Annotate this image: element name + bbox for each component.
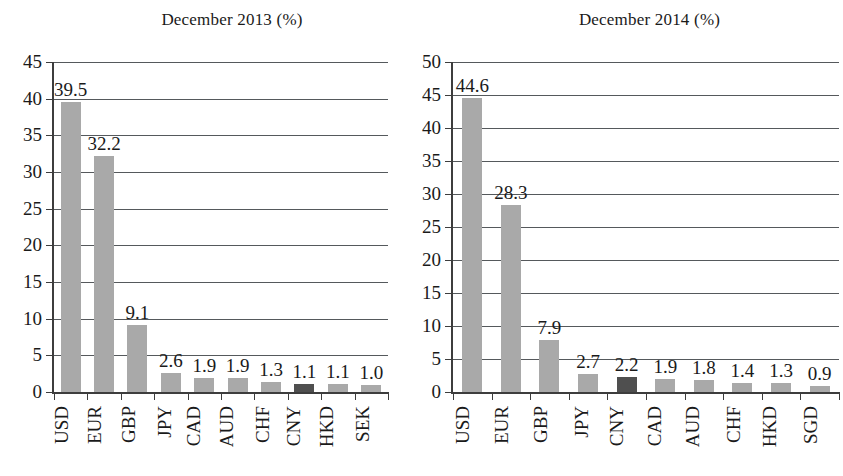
bar-item[interactable]: 1.1HKD	[321, 62, 354, 392]
bar-item[interactable]: 1.9CAD	[646, 62, 685, 392]
y-axis-tick-label: 30	[23, 162, 42, 181]
chart-title-december-2013: December 2013 (%)	[0, 10, 438, 30]
bar-item[interactable]: 2.7JPY	[569, 62, 608, 392]
x-axis-tick	[646, 392, 647, 400]
x-axis-tick	[221, 392, 222, 400]
bar-aud[interactable]	[228, 378, 248, 392]
x-axis-tick	[453, 392, 454, 400]
bar-item[interactable]: 0.9SGD	[800, 62, 839, 392]
bar-hkd[interactable]	[328, 384, 348, 392]
bar-item[interactable]: 1.9CAD	[188, 62, 221, 392]
x-axis-category-label-jpy: JPY	[155, 406, 174, 438]
bar-value-label: 1.3	[259, 360, 283, 379]
bar-item[interactable]: 2.6JPY	[154, 62, 187, 392]
bar-value-label: 7.9	[538, 318, 562, 337]
y-axis-tick-label: 0	[33, 382, 43, 401]
bar-eur[interactable]	[501, 205, 521, 392]
x-axis-tick	[87, 392, 88, 400]
x-axis-tick	[388, 392, 389, 400]
bar-value-label: 28.3	[494, 183, 527, 202]
y-axis-tick-label: 50	[422, 52, 441, 71]
y-axis-tick-label: 0	[432, 382, 442, 401]
category-label-text: JPY	[155, 406, 174, 438]
y-axis-tick-label: 5	[432, 349, 442, 368]
y-axis-tick-label: 25	[422, 217, 441, 236]
category-label-text: CAD	[184, 406, 203, 446]
plot-area-december-2013: 051015202530354045 39.5USD32.2EUR9.1GBP2…	[52, 62, 388, 394]
bar-value-label: 0.9	[808, 364, 832, 383]
bar-value-label: 1.1	[326, 362, 350, 381]
bar-item[interactable]: 1.4CHF	[723, 62, 762, 392]
bar-item[interactable]: 1.9AUD	[221, 62, 254, 392]
x-axis-category-label-aud: AUD	[683, 406, 702, 447]
bar-item[interactable]: 39.5USD	[54, 62, 87, 392]
bar-item[interactable]: 7.9GBP	[530, 62, 569, 392]
bar-chf[interactable]	[732, 383, 752, 392]
x-axis-tick	[685, 392, 686, 400]
category-label-text: CHF	[253, 406, 272, 443]
y-axis-tick	[445, 359, 453, 360]
bar-item[interactable]: 1.8AUD	[685, 62, 724, 392]
category-label-text: USD	[453, 406, 472, 444]
bar-item[interactable]: 44.6USD	[453, 62, 492, 392]
bar-cny[interactable]	[294, 384, 314, 392]
x-axis-category-label-eur: EUR	[492, 406, 511, 444]
y-axis-tick	[46, 392, 54, 393]
category-label-text: AUD	[217, 406, 236, 447]
y-axis-tick-label: 40	[23, 89, 42, 108]
y-axis-tick-label: 25	[23, 199, 42, 218]
bar-chf[interactable]	[261, 382, 281, 392]
y-axis-tick	[46, 282, 54, 283]
bar-hkd[interactable]	[771, 383, 791, 392]
bar-value-label: 9.1	[126, 303, 150, 322]
y-axis-tick	[46, 245, 54, 246]
bar-gbp[interactable]	[127, 325, 147, 392]
bar-value-label: 39.5	[54, 80, 87, 99]
category-label-text: USD	[52, 406, 71, 444]
bar-usd[interactable]	[61, 102, 81, 392]
x-axis-tick	[607, 392, 608, 400]
bar-usd[interactable]	[462, 98, 482, 392]
x-axis-tick	[288, 392, 289, 400]
bar-item[interactable]: 1.3CHF	[254, 62, 287, 392]
bar-item[interactable]: 2.2CNY	[607, 62, 646, 392]
category-label-text: AUD	[683, 406, 702, 447]
x-axis-tick	[800, 392, 801, 400]
bar-cad[interactable]	[194, 378, 214, 392]
bar-gbp[interactable]	[539, 340, 559, 392]
y-axis-tick	[445, 95, 453, 96]
bar-value-label: 2.7	[576, 352, 600, 371]
bar-item[interactable]: 28.3EUR	[492, 62, 531, 392]
bar-item[interactable]: 9.1GBP	[121, 62, 154, 392]
x-axis-category-label-hkd: HKD	[317, 406, 336, 447]
bar-value-label: 1.9	[226, 356, 250, 375]
x-axis-tick	[839, 392, 840, 400]
y-axis-tick	[46, 62, 54, 63]
y-axis-tick-label: 30	[422, 184, 441, 203]
y-axis-tick-label: 40	[422, 118, 441, 137]
bar-sgd[interactable]	[810, 386, 830, 392]
y-axis-tick-label: 35	[23, 125, 42, 144]
bar-item[interactable]: 1.0SEK	[355, 62, 388, 392]
bar-eur[interactable]	[94, 156, 114, 392]
bar-item[interactable]: 1.3HKD	[762, 62, 801, 392]
bar-item[interactable]: 1.1CNY	[288, 62, 321, 392]
x-axis-tick	[188, 392, 189, 400]
y-axis-tick	[445, 392, 453, 393]
category-label-text: SEK	[353, 406, 372, 442]
bar-sek[interactable]	[361, 385, 381, 392]
y-axis-tick-label: 15	[23, 272, 42, 291]
bar-jpy[interactable]	[161, 373, 181, 392]
y-axis-tick	[445, 62, 453, 63]
bar-item[interactable]: 32.2EUR	[87, 62, 120, 392]
bar-cny[interactable]	[617, 377, 637, 392]
x-axis-tick	[154, 392, 155, 400]
x-axis-category-label-cny: CNY	[607, 406, 626, 446]
bar-aud[interactable]	[694, 380, 714, 392]
bar-value-label: 1.9	[192, 356, 216, 375]
bar-jpy[interactable]	[578, 374, 598, 392]
bar-cad[interactable]	[655, 379, 675, 392]
x-axis-tick	[355, 392, 356, 400]
x-axis-category-label-sek: SEK	[353, 406, 372, 442]
x-axis-category-label-cny: CNY	[284, 406, 303, 446]
